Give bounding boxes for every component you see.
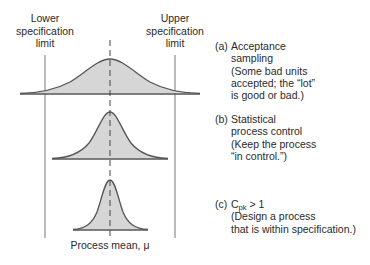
caption-b-line: (Keep the process [215, 138, 316, 150]
upper-spec-label-line: Upper [132, 12, 218, 25]
caption-b-line: process control [215, 125, 316, 137]
caption-c-line: (Design a process [215, 210, 356, 222]
caption-a-line: sampling [215, 52, 315, 64]
upper-spec-label-line: specification [132, 25, 218, 38]
upper-spec-label-line: limit [132, 37, 218, 50]
caption-c-line: that is within specification.) [215, 223, 356, 235]
caption-c: (c)Cpk > 1 (Design a process that is wit… [215, 198, 356, 235]
caption-c-title: C [231, 198, 239, 210]
caption-a-line: is good or bad.) [215, 89, 315, 101]
caption-a-line: Acceptance [231, 40, 286, 52]
caption-b: (b)Statistical process control (Keep the… [215, 113, 316, 162]
process-mean-text: Process mean, μ [71, 239, 150, 251]
upper-spec-label: Upper specification limit [132, 12, 218, 50]
lower-spec-label-line: specification [2, 25, 88, 38]
caption-a-line: accepted; the “lot” [215, 77, 315, 89]
caption-c-tag: (c) [215, 198, 231, 210]
lower-spec-label: Lower specification limit [2, 12, 88, 50]
caption-a: (a)Acceptance sampling (Some bad units a… [215, 40, 315, 101]
caption-b-tag: (b) [215, 113, 231, 125]
caption-b-line: “in control.”) [215, 150, 316, 162]
caption-b-line: Statistical [231, 113, 276, 125]
caption-c-title-rest: > 1 [247, 198, 265, 210]
process-mean-label: Process mean, μ [60, 239, 160, 252]
caption-a-tag: (a) [215, 40, 231, 52]
lower-spec-label-line: limit [2, 37, 88, 50]
lower-spec-label-line: Lower [2, 12, 88, 25]
caption-a-line: (Some bad units [215, 65, 315, 77]
